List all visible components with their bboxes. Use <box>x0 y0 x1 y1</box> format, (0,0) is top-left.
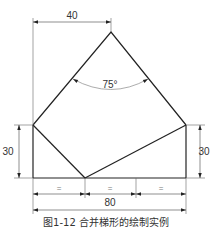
dimension-lines <box>19 22 200 210</box>
dim-eq3-text: = <box>159 184 164 193</box>
dim-eq1-text: = <box>57 184 62 193</box>
dim-40-text: 40 <box>66 10 78 21</box>
technical-drawing: 40 75° 30 30 80 = = = <box>0 0 212 228</box>
dim-80-text: 80 <box>104 197 116 208</box>
dim-30-right-text: 30 <box>198 146 210 157</box>
dim-eq2-text: = <box>108 184 113 193</box>
dim-30-left-text: 30 <box>2 146 14 157</box>
dim-angle-text: 75° <box>102 79 117 90</box>
figure-caption: 图1-12 合并梯形的绘制实例 <box>0 214 212 228</box>
shape-outline <box>33 32 186 178</box>
